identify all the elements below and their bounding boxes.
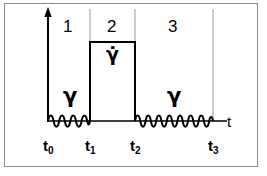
- tick-label-t1: t1: [85, 138, 96, 153]
- x-axis-label: t: [227, 114, 231, 129]
- region-3-number: 3: [168, 18, 177, 35]
- interval-3-gamma-label: γ: [167, 86, 181, 107]
- interval-2-gamma-dot-label: γ̇: [106, 45, 119, 64]
- tick-t3-sub: 3: [213, 145, 219, 156]
- region-2-number: 2: [107, 18, 116, 35]
- tick-label-t0: t0: [43, 138, 54, 153]
- tick-t2-sub: 2: [135, 145, 141, 156]
- interval-1-gamma-label: γ: [63, 86, 77, 107]
- figure-frame: 1 2 3 γ̇ γ γ t t0 t1 t2 t3: [4, 3, 258, 167]
- tick-t0-sub: 0: [48, 145, 54, 156]
- tick-label-t2: t2: [130, 138, 141, 153]
- y-axis-arrow-icon: [44, 7, 51, 17]
- region-1-number: 1: [63, 18, 72, 35]
- tick-t1-sub: 1: [90, 145, 96, 156]
- screenshot-root: 1 2 3 γ̇ γ γ t t0 t1 t2 t3: [0, 0, 267, 176]
- tick-label-t3: t3: [208, 138, 219, 153]
